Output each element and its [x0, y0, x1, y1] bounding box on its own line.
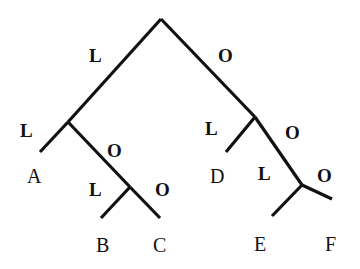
- leaf-labels-group: ABCDEF: [27, 165, 336, 256]
- edge-n4-F: [302, 185, 332, 199]
- edge-label-n2-C: O: [155, 179, 170, 200]
- leaf-label-F: F: [325, 233, 336, 255]
- edge-n1-A: [40, 122, 68, 152]
- edge-root-n1: [68, 19, 161, 122]
- leaf-label-B: B: [96, 234, 109, 256]
- leaf-label-E: E: [254, 233, 266, 255]
- edge-label-root-n1: L: [89, 45, 102, 66]
- edge-label-n1-n2: O: [107, 140, 122, 161]
- edge-n3-D: [226, 117, 255, 152]
- edge-label-n4-F: O: [317, 165, 332, 186]
- edge-label-n3-D: L: [205, 118, 218, 139]
- edge-n4-E: [272, 185, 302, 216]
- edge-label-n2-B: L: [89, 179, 102, 200]
- leaf-label-A: A: [27, 165, 42, 187]
- edge-label-n4-E: L: [258, 163, 271, 184]
- edge-root-n3: [161, 19, 255, 117]
- leaf-label-D: D: [210, 165, 224, 187]
- leaf-label-C: C: [153, 234, 166, 256]
- edge-n2-B: [101, 187, 130, 218]
- edge-label-n3-n4: O: [285, 122, 300, 143]
- edges-group: [40, 19, 332, 218]
- edge-label-n1-A: L: [20, 120, 33, 141]
- edge-label-root-n3: O: [218, 45, 233, 66]
- tree-diagram: LOLOLOLOLO ABCDEF: [0, 0, 360, 269]
